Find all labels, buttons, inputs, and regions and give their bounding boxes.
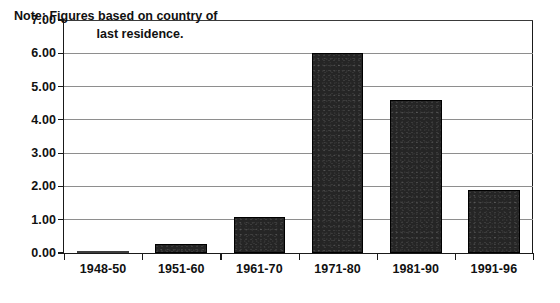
x-tick-label-1951-60: 1951-60 bbox=[158, 262, 205, 276]
y-tick-label: 2.00 bbox=[4, 179, 56, 193]
y-tick-mark bbox=[58, 86, 64, 87]
y-axis-line bbox=[63, 20, 64, 253]
x-tick-mark bbox=[299, 253, 300, 260]
x-tick-label-1971-80: 1971-80 bbox=[314, 262, 361, 276]
gridline bbox=[64, 219, 533, 220]
bar-1951-60 bbox=[155, 244, 207, 253]
chart-note-line-2: last residence. bbox=[14, 25, 266, 43]
x-tick-mark bbox=[377, 253, 378, 260]
gridline bbox=[64, 86, 533, 87]
x-tick-mark bbox=[142, 253, 143, 260]
x-tick-mark bbox=[64, 253, 65, 260]
bar-1971-80 bbox=[312, 53, 364, 253]
y-tick-label: 5.00 bbox=[4, 80, 56, 94]
x-tick-label-1948-50: 1948-50 bbox=[80, 262, 127, 276]
gridline bbox=[64, 186, 533, 187]
bar-1981-90 bbox=[390, 100, 442, 253]
bar-1991-96 bbox=[468, 190, 520, 253]
bar-1961-70 bbox=[234, 217, 286, 253]
y-tick-mark bbox=[58, 53, 64, 54]
y-tick-mark bbox=[58, 186, 64, 187]
y-tick-mark bbox=[58, 153, 64, 154]
gridline bbox=[64, 53, 533, 54]
plot-right-border bbox=[532, 20, 533, 253]
y-tick-label: 6.00 bbox=[4, 46, 56, 60]
x-tick-label-1981-90: 1981-90 bbox=[392, 262, 439, 276]
chart-note-line-1: Note: Figures based on country of bbox=[14, 7, 266, 25]
y-tick-mark bbox=[58, 219, 64, 220]
bar-1948-50 bbox=[77, 251, 129, 253]
x-tick-label-1991-96: 1991-96 bbox=[471, 262, 518, 276]
plot-area bbox=[64, 20, 533, 253]
y-tick-mark bbox=[58, 119, 64, 120]
y-tick-label: 0.00 bbox=[4, 246, 56, 260]
y-tick-label: 4.00 bbox=[4, 113, 56, 127]
gridline bbox=[64, 119, 533, 120]
x-axis: 1948-501951-601961-701971-801981-901991-… bbox=[64, 262, 533, 286]
x-tick-mark bbox=[533, 253, 534, 260]
chart-note: Note: Figures based on country of last r… bbox=[14, 7, 266, 43]
x-tick-mark bbox=[455, 253, 456, 260]
y-axis: 0.001.002.003.004.005.006.007.00 bbox=[0, 0, 56, 303]
bar-chart: 0.001.002.003.004.005.006.007.00 1948-50… bbox=[0, 0, 560, 303]
y-tick-label: 1.00 bbox=[4, 213, 56, 227]
x-tick-mark bbox=[220, 253, 221, 260]
y-tick-label: 3.00 bbox=[4, 146, 56, 160]
x-tick-label-1961-70: 1961-70 bbox=[236, 262, 283, 276]
gridline bbox=[64, 153, 533, 154]
